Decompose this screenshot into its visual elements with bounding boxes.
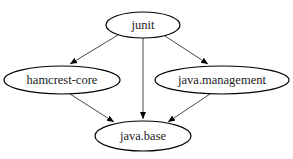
node-junit[interactable]: junit <box>106 12 180 38</box>
edge-junit-java-management <box>165 36 208 64</box>
node-hamcrest-core[interactable]: hamcrest-core <box>4 66 120 94</box>
node-java-base-label: java.base <box>119 129 167 143</box>
edge-junit-hamcrest-core <box>70 35 118 64</box>
node-java-base[interactable]: java.base <box>95 121 191 151</box>
edge-hamcrest-core-java-base <box>70 94 114 122</box>
edge-java-management-java-base <box>168 94 210 122</box>
node-junit-label: junit <box>131 18 155 32</box>
node-java-management[interactable]: java.management <box>155 66 289 94</box>
dependency-graph: junit hamcrest-core java.management java… <box>0 0 293 159</box>
node-hamcrest-core-label: hamcrest-core <box>27 73 98 87</box>
node-java-management-label: java.management <box>177 73 266 87</box>
